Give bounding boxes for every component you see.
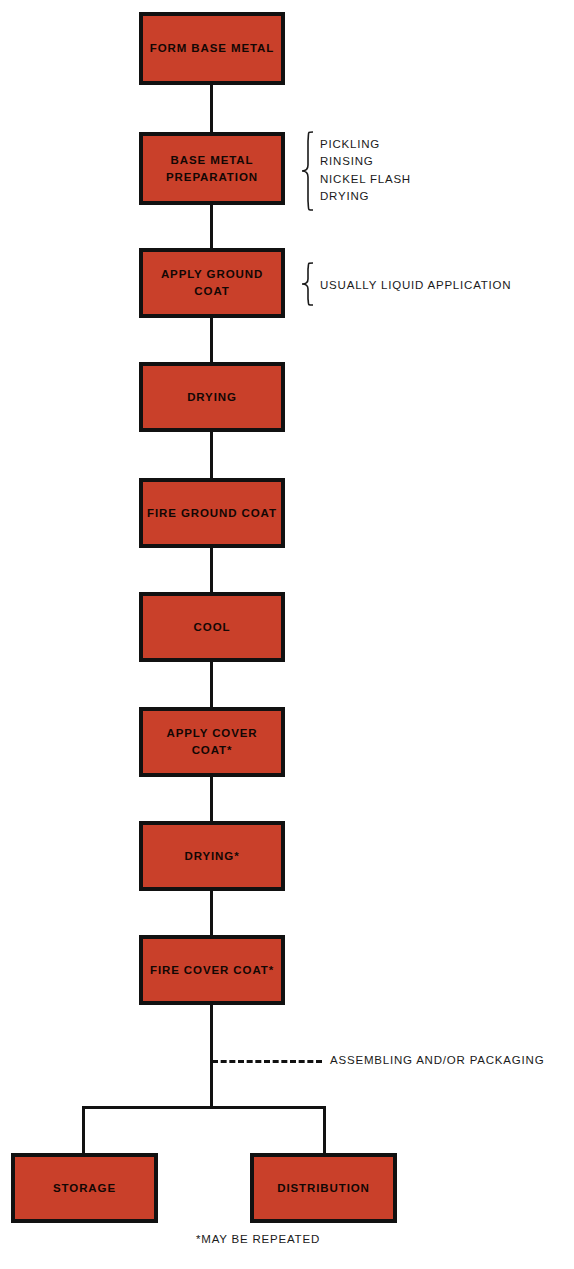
connector-drying-to-fire [210, 432, 213, 478]
node-label-distribution: DISTRIBUTION [273, 1180, 374, 1197]
node-label-apply-ground-coat: APPLY GROUND COAT [143, 266, 281, 299]
node-base-metal-preparation[interactable]: BASE METAL PREPARATION [139, 132, 285, 205]
process-flow-diagram: FORM BASE METAL BASE METAL PREPARATION A… [0, 0, 574, 1269]
connector-firecover-to-branch [210, 1005, 213, 1108]
node-fire-ground-coat[interactable]: FIRE GROUND COAT [139, 478, 285, 548]
node-label-storage: STORAGE [49, 1180, 120, 1197]
node-label-drying: DRYING [183, 389, 241, 406]
connector-prep-to-ground [210, 205, 213, 248]
annotation-assembling-packaging: ASSEMBLING AND/OR PACKAGING [330, 1052, 544, 1069]
connector-drying2-to-firecover [210, 891, 213, 935]
node-label-fire-cover-coat: FIRE COVER COAT* [146, 962, 278, 979]
node-apply-cover-coat[interactable]: APPLY COVER COAT* [139, 707, 285, 777]
connector-fire-to-cool [210, 548, 213, 592]
node-label-fire-ground-coat: FIRE GROUND COAT [143, 505, 281, 522]
connector-branch-to-storage [82, 1106, 85, 1155]
assembling-dashed-leader [212, 1060, 322, 1063]
annotation-base-metal-steps: PICKLING RINSING NICKEL FLASH DRYING [320, 136, 411, 206]
connector-branch-to-distribution [323, 1106, 326, 1155]
node-label-cool: COOL [190, 619, 235, 636]
node-label-apply-cover-coat: APPLY COVER COAT* [143, 725, 281, 758]
node-form-base-metal[interactable]: FORM BASE METAL [139, 12, 285, 85]
node-cool[interactable]: COOL [139, 592, 285, 662]
footnote-may-be-repeated: *MAY BE REPEATED [196, 1233, 320, 1245]
branch-horizontal-bar [82, 1106, 326, 1109]
connector-cover-to-drying2 [210, 777, 213, 821]
brace-ground-coat-note [300, 262, 316, 306]
connector-form-to-prep [210, 85, 213, 132]
node-label-form-base-metal: FORM BASE METAL [146, 40, 278, 57]
node-drying-repeat[interactable]: DRYING* [139, 821, 285, 891]
brace-base-metal-steps [300, 131, 316, 211]
node-drying[interactable]: DRYING [139, 362, 285, 432]
annotation-ground-coat-note: USUALLY LIQUID APPLICATION [320, 277, 511, 294]
node-distribution[interactable]: DISTRIBUTION [250, 1153, 397, 1223]
node-label-base-metal-preparation: BASE METAL PREPARATION [162, 152, 262, 185]
node-storage[interactable]: STORAGE [11, 1153, 158, 1223]
connector-ground-to-drying [210, 318, 213, 362]
node-label-drying-repeat: DRYING* [180, 848, 243, 865]
node-apply-ground-coat[interactable]: APPLY GROUND COAT [139, 248, 285, 318]
node-fire-cover-coat[interactable]: FIRE COVER COAT* [139, 935, 285, 1005]
connector-cool-to-cover [210, 662, 213, 707]
